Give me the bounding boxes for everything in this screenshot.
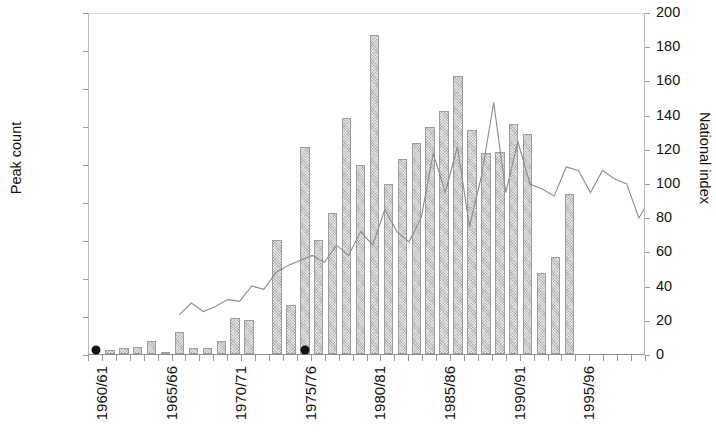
y-axis-right-tick-mark [645,287,650,288]
x-axis-tick-mark [534,355,535,361]
y-axis-right-tick-mark [645,184,650,185]
x-axis-tick-mark [589,355,590,361]
y-axis-right-tick-mark [645,252,650,253]
y-axis-right-tick-label: 180 [656,39,706,54]
x-axis-tick-mark [158,355,159,361]
y-axis-right-tick-mark [645,321,650,322]
y-axis-right-tick-mark [645,47,650,48]
x-axis-tick-mark [297,355,298,361]
x-axis-tick-label: 1990/91 [511,366,528,420]
x-axis-tick-mark [603,355,604,361]
x-axis-tick-mark [172,355,173,361]
x-axis-tick-mark [380,355,381,361]
x-axis-tick-mark [185,355,186,361]
x-axis-tick-mark [241,355,242,361]
x-axis-tick-mark [422,355,423,361]
y-axis-right-tick-label: 20 [656,313,706,328]
y-axis-right-tick-label: 0 [656,347,706,362]
x-axis-tick-label: 1975/76 [302,366,319,420]
x-axis-tick-mark [617,355,618,361]
x-axis-tick-mark [255,355,256,361]
x-axis-tick-mark [339,355,340,361]
x-axis-tick-mark [464,355,465,361]
x-axis-tick-mark [325,355,326,361]
x-axis-tick-mark [408,355,409,361]
y-axis-right-tick-label: 200 [656,5,706,20]
x-axis-tick-label: 1985/86 [441,366,458,420]
y-axis-right-tick-mark [645,81,650,82]
x-axis-tick-label: 1960/61 [93,366,110,420]
y-axis-right-tick-mark [645,116,650,117]
x-axis-tick-mark [311,355,312,361]
x-axis-tick-mark [88,355,89,361]
x-axis-tick-label: 1995/96 [580,366,597,420]
x-axis-tick-mark [283,355,284,361]
x-axis-tick-mark [394,355,395,361]
dot-marker [300,346,309,355]
plot-area [88,13,645,355]
x-axis-tick-mark [478,355,479,361]
dot-marker [91,346,100,355]
y-axis-right-tick-label: 60 [656,244,706,259]
x-axis-tick-mark [548,355,549,361]
x-axis-tick-mark [199,355,200,361]
x-axis-tick-label: 1970/71 [232,366,249,420]
x-axis-tick-mark [450,355,451,361]
y-axis-right-tick-label: 100 [656,176,706,191]
dot-markers [89,14,644,354]
y-axis-right-tick-label: 80 [656,210,706,225]
x-axis-tick-label: 1980/81 [371,366,388,420]
x-axis-tick-mark [631,355,632,361]
y-axis-right-tick-label: 40 [656,279,706,294]
y-axis-right-tick-mark [645,150,650,151]
x-axis-tick-mark [506,355,507,361]
x-axis-tick-mark [102,355,103,361]
y-axis-left-title: Peak count [8,98,24,218]
x-axis-tick-mark [645,355,646,361]
x-axis-tick-mark [367,355,368,361]
y-axis-right-tick-mark [645,218,650,219]
x-axis-tick-label: 1965/66 [163,366,180,420]
y-axis-right-tick-label: 160 [656,73,706,88]
y-axis-right-tick-label: 120 [656,142,706,157]
y-axis-right-tick-mark [645,13,650,14]
chart-figure: Peak count National index 05001000150020… [0,0,716,435]
x-axis-tick-mark [575,355,576,361]
x-axis-tick-mark [130,355,131,361]
x-axis-tick-mark [436,355,437,361]
x-axis-tick-mark [213,355,214,361]
x-axis-tick-mark [116,355,117,361]
x-axis-tick-mark [492,355,493,361]
x-axis-tick-mark [520,355,521,361]
x-axis-tick-mark [269,355,270,361]
y-axis-right-tick-label: 140 [656,108,706,123]
x-axis-tick-mark [227,355,228,361]
x-axis-tick-mark [353,355,354,361]
x-axis-tick-mark [561,355,562,361]
x-axis-tick-mark [144,355,145,361]
